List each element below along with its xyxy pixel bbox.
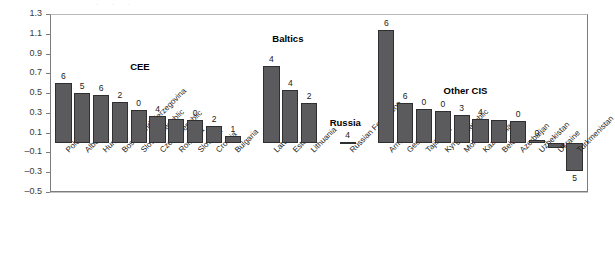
y-tick-label: 0.3 — [0, 108, 42, 117]
y-tick-label: –0.3 — [0, 167, 42, 176]
group-label: Baltics — [0, 34, 600, 44]
y-tick-label: –0.1 — [0, 147, 42, 156]
bar-value-label: 4 — [142, 105, 172, 114]
group-label: CEE — [0, 62, 600, 72]
group-label: Other CIS — [0, 86, 600, 96]
bar-value-label: 6 — [48, 72, 78, 81]
y-tick-label: –0.5 — [0, 187, 42, 196]
group-label: Russia — [0, 118, 600, 128]
top-clipped-text: . . . — [96, 0, 136, 6]
y-tick-label: 0.9 — [0, 49, 42, 58]
bar-value-label: 6 — [371, 19, 401, 28]
gridline — [50, 192, 588, 193]
y-tick-mark — [46, 192, 50, 193]
bar-value-label: 5 — [559, 174, 589, 183]
y-tick-label: 0.1 — [0, 128, 42, 137]
bar-value-label: 4 — [465, 108, 495, 117]
bar — [263, 66, 279, 142]
y-tick-label: 1.3 — [0, 9, 42, 18]
